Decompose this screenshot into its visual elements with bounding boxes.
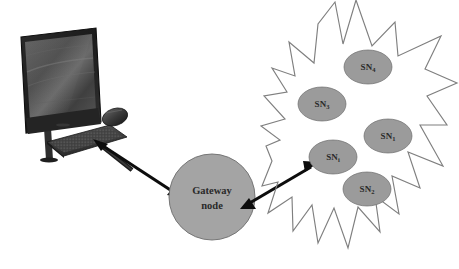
monitor-screen	[25, 34, 96, 121]
sn4-base: SN	[360, 62, 372, 72]
sn1-subscript: 1	[392, 135, 395, 142]
diagram-canvas: Gateway node SN4 SN3	[0, 0, 459, 269]
svg-text:SNi: SNi	[326, 152, 340, 163]
sn2-subscript: 2	[371, 188, 374, 195]
gateway-node-label-line1: Gateway	[192, 185, 232, 196]
all-in-one-computer-image	[21, 28, 132, 170]
sensor-field-star-outline	[261, 0, 457, 248]
sni-subscript: i	[338, 156, 340, 163]
sensor-node-sn4[interactable]: SN4	[344, 50, 392, 84]
wsn-architecture-diagram: Gateway node SN4 SN3	[0, 0, 459, 269]
sensor-node-sni[interactable]: SNi	[309, 140, 357, 174]
sn3-base: SN	[314, 99, 326, 109]
sensor-nodes-group: SN4 SN3 SN1 SNi	[298, 50, 412, 206]
sni-base: SN	[326, 152, 338, 162]
sensor-node-sn2[interactable]: SN2	[343, 172, 391, 206]
sensor-node-sn1[interactable]: SN1	[364, 119, 412, 153]
gateway-node-label-line2: node	[201, 200, 223, 211]
sn1-base: SN	[380, 131, 392, 141]
gateway-node[interactable]: Gateway node	[169, 154, 255, 240]
mouse	[100, 105, 130, 129]
sn2-base: SN	[359, 184, 371, 194]
sensor-node-sn3[interactable]: SN3	[298, 87, 346, 121]
